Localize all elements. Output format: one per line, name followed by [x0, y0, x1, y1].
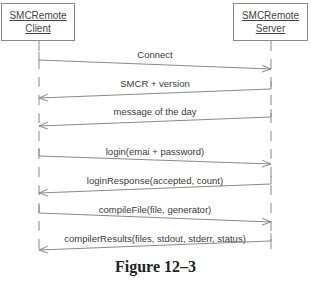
message-label-connect: Connect — [137, 49, 172, 60]
message-label-version: SMCR + version — [120, 78, 189, 89]
sequence-diagram: SMCRemote Client SMCRemote Server Connec… — [0, 0, 311, 282]
message-label-login: login(emai + password) — [106, 146, 204, 157]
message-label-motd: message of the day — [114, 106, 197, 117]
figure-caption: Figure 12–3 — [0, 258, 311, 276]
message-arrow — [39, 60, 271, 69]
actor-client-name: SMCRemote — [9, 9, 66, 22]
message-arrow — [39, 89, 271, 98]
actor-server-name: SMCRemote — [242, 9, 299, 22]
message-arrow — [39, 117, 271, 126]
actor-client-role: Client — [25, 22, 51, 35]
actor-client: SMCRemote Client — [1, 3, 75, 41]
message-label-login-response: loginResponse(accepted, count) — [87, 175, 223, 186]
message-label-compile-file: compileFile(file, generator) — [99, 204, 211, 215]
message-arrow — [39, 156, 271, 164]
actor-server-role: Server — [256, 22, 285, 35]
actor-server: SMCRemote Server — [233, 3, 308, 41]
message-label-compiler-results: compilerResults(files, stdout, stderr, s… — [64, 233, 246, 244]
